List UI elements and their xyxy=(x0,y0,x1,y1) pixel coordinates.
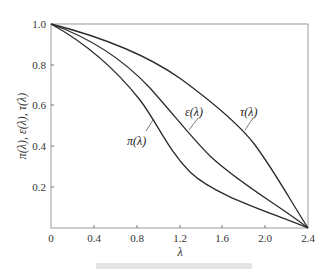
x-tick-label: 2.4 xyxy=(301,232,315,244)
epsilon-curve xyxy=(51,24,308,228)
x-tick-label: 0.4 xyxy=(87,232,101,244)
x-axis: 0 0.4 0.8 1.2 1.6 2.0 2.4 λ xyxy=(48,225,315,259)
x-tick-label: 0.8 xyxy=(130,232,144,244)
y-axis-title: π(λ), ε(λ), τ(λ) xyxy=(15,93,29,160)
x-tick-label: 1.2 xyxy=(173,232,187,244)
x-axis-title: λ xyxy=(176,245,182,259)
x-tick-label: 1.6 xyxy=(215,232,229,244)
tau-label: τ(λ) xyxy=(240,105,257,119)
y-tick-label: 0.6 xyxy=(32,99,46,111)
line-chart: 0.2 0.4 0.6 0.8 1.0 π(λ), ε(λ), τ(λ) 0 0… xyxy=(0,0,329,271)
pi-label: π(λ) xyxy=(127,134,146,148)
y-tick-label: 1.0 xyxy=(32,18,46,30)
y-axis: 0.2 0.4 0.6 0.8 1.0 π(λ), ε(λ), τ(λ) xyxy=(15,18,54,193)
pi-leader-line xyxy=(146,120,153,131)
y-tick-label: 0.2 xyxy=(32,181,46,193)
curves xyxy=(51,24,308,228)
plot-frame xyxy=(51,24,308,228)
pi-curve xyxy=(51,24,308,228)
y-tick-label: 0.4 xyxy=(32,140,46,152)
x-tick-label: 0 xyxy=(48,232,54,244)
tau-leader-line xyxy=(245,118,253,130)
epsilon-leader-line xyxy=(189,118,198,130)
y-tick-label: 0.8 xyxy=(32,59,46,71)
x-tick-label: 2.0 xyxy=(258,232,272,244)
tau-curve xyxy=(51,24,308,228)
figure-caption xyxy=(96,263,252,269)
epsilon-label: ε(λ) xyxy=(185,105,203,119)
